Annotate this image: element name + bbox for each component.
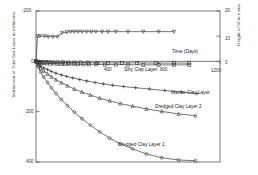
plot-canvas [0, 0, 258, 175]
chart-figure: Settlement of Total Soil Layer in millim… [0, 0, 258, 175]
